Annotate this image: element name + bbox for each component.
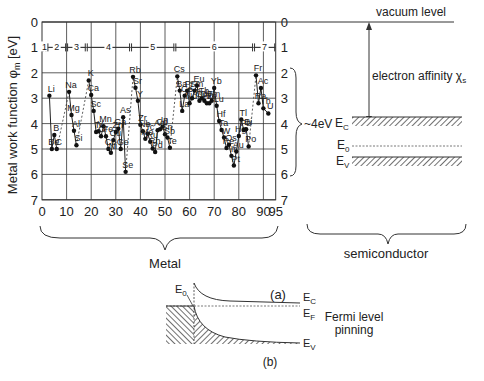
y-tick-label-right: 6 <box>281 167 288 182</box>
svg-text:Te: Te <box>167 136 177 146</box>
period-label: 3 <box>74 42 79 52</box>
svg-text:Tl: Tl <box>240 108 248 118</box>
svg-text:Fr: Fr <box>254 63 263 73</box>
data-point: U <box>266 101 273 115</box>
svg-text:B: B <box>53 123 59 133</box>
svg-text:Lu: Lu <box>214 94 224 104</box>
x-tick-label: 95 <box>268 204 282 219</box>
x-tick-label: 60 <box>182 204 196 219</box>
semiconductor-band-diagram: vacuum level electron affinity χs EC E0 … <box>276 5 466 170</box>
data-point: Bi <box>244 117 252 131</box>
data-series: LiBeBCNaMgAlSiKCaScTiVCrMnFeCoNiCuZnGaGe… <box>47 63 273 174</box>
valence-band-region <box>194 306 300 344</box>
data-point: Li <box>47 84 55 98</box>
b-ef-label: EF <box>303 307 315 322</box>
period-label: 1 <box>42 42 47 52</box>
x-tick-label: 10 <box>59 204 73 219</box>
b-ec-label: EC <box>303 291 316 306</box>
ec-label: EC <box>335 116 349 132</box>
y-tick-labels-right: 01234567 <box>281 15 288 208</box>
y-tick-label-right: 5 <box>281 142 288 157</box>
figure: 1234567 LiBeBCNaMgAlSiKCaScTiVCrMnFeCoNi… <box>0 0 484 381</box>
ev-label: EV <box>336 154 350 170</box>
svg-text:Y: Y <box>137 89 143 99</box>
data-point: Y <box>136 89 143 103</box>
svg-text:Ge: Ge <box>117 137 129 147</box>
semiconductor-brace <box>307 224 466 244</box>
period-label: 2 <box>54 42 59 52</box>
period-label: 6 <box>212 42 217 52</box>
svg-text:Mn: Mn <box>99 114 112 124</box>
b-ev-label: EV <box>303 337 316 352</box>
panel-a-label: (a) <box>270 287 286 302</box>
y-tick-label-right: 3 <box>281 91 288 106</box>
electron-affinity-label: electron affinity χs <box>372 69 466 85</box>
svg-text:Pd: Pd <box>152 140 163 150</box>
metal-block <box>166 306 194 344</box>
y-tick-label-right: 1 <box>281 40 288 55</box>
y-tick-label-right: 2 <box>281 66 288 81</box>
semiconductor-label: semiconductor <box>344 246 429 261</box>
e0-pointer <box>187 295 193 306</box>
data-point: Pt <box>232 154 241 168</box>
y-tick-label: 4 <box>31 117 38 132</box>
data-point: K <box>87 68 94 82</box>
data-point: Te <box>167 136 177 150</box>
svg-text:Yb: Yb <box>211 76 222 86</box>
svg-text:Bi: Bi <box>244 117 252 127</box>
svg-text:As: As <box>120 105 131 115</box>
svg-text:Na: Na <box>65 80 77 90</box>
metal-label: Metal <box>149 256 181 271</box>
x-tick-label: 40 <box>133 204 147 219</box>
svg-text:Rb: Rb <box>129 65 141 75</box>
data-point: Mg <box>67 103 80 117</box>
period-label: 4 <box>106 42 111 52</box>
x-tick-label: 70 <box>207 204 221 219</box>
x-tick-label: 0 <box>38 204 45 219</box>
data-point: Pd <box>152 140 163 154</box>
y-tick-label: 1 <box>31 40 38 55</box>
pinning-label-line2: pinning <box>335 323 374 337</box>
range-brace <box>290 68 302 176</box>
range-label: ~4eV <box>304 117 332 131</box>
x-tick-labels: 010203040506070809095 <box>38 204 283 219</box>
y-tick-label-right: 4 <box>281 117 288 132</box>
svg-text:Po: Po <box>245 134 256 144</box>
period-spans: 1234567 <box>40 41 274 52</box>
b-e0-label: E0 <box>175 283 187 298</box>
data-point: B <box>52 123 59 137</box>
svg-text:Se: Se <box>122 160 133 170</box>
valence-band <box>352 157 462 166</box>
svg-text:Mg: Mg <box>67 103 80 113</box>
svg-text:Ca: Ca <box>87 83 99 93</box>
x-tick-label: 50 <box>158 204 172 219</box>
svg-text:C: C <box>56 137 63 147</box>
svg-text:Sb: Sb <box>164 126 175 136</box>
svg-text:U: U <box>267 101 274 111</box>
data-point: Lu <box>214 94 224 108</box>
y-tick-label: 7 <box>31 193 38 208</box>
work-function-plot: 1234567 LiBeBCNaMgAlSiKCaScTiVCrMnFeCoNi… <box>31 15 288 219</box>
data-point: Al <box>72 119 80 133</box>
svg-text:Sc: Sc <box>90 99 101 109</box>
pinning-label-line1: Fermi level <box>325 310 384 324</box>
period-label: 7 <box>262 42 267 52</box>
svg-text:K: K <box>88 68 94 78</box>
panel-b-label: (b) <box>263 355 278 369</box>
x-tick-label: 80 <box>232 204 246 219</box>
svg-text:Ac: Ac <box>258 76 269 86</box>
vacuum-level-label: vacuum level <box>376 5 446 19</box>
y-tick-label: 5 <box>31 142 38 157</box>
period-label: 5 <box>150 42 155 52</box>
svg-text:Al: Al <box>72 119 80 129</box>
svg-text:Si: Si <box>74 133 82 143</box>
data-point: Sc <box>90 99 101 113</box>
data-point: Si <box>74 133 82 147</box>
data-point: Cs <box>174 64 185 78</box>
data-point: Se <box>122 160 133 174</box>
svg-text:Pt: Pt <box>232 154 241 164</box>
y-tick-label: 6 <box>31 167 38 182</box>
y-tick-labels-left: 01234567 <box>31 15 38 208</box>
svg-text:Li: Li <box>48 84 55 94</box>
data-point: Po <box>245 134 256 148</box>
